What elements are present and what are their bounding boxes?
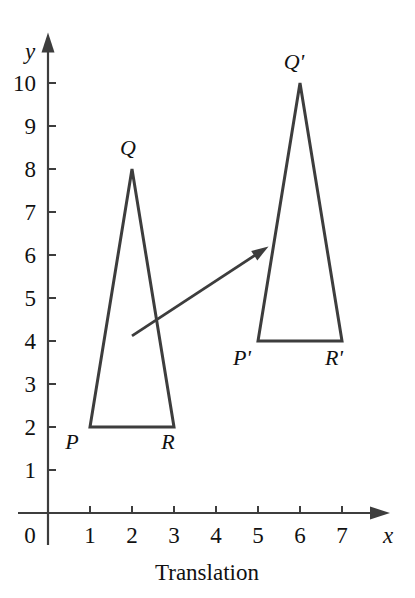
y-tick-label-3: 3 [25, 372, 37, 397]
x-tick-label-7: 7 [336, 523, 348, 548]
triangle-pqr-prime [258, 83, 342, 341]
vertex-label-P-prime: P' [232, 345, 251, 370]
x-tick-label-5: 5 [252, 523, 264, 548]
x-axis-arrowhead [370, 507, 390, 520]
vertex-label-Q: Q [120, 135, 136, 160]
y-axis-label: y [23, 39, 36, 64]
y-tick-label-1: 1 [25, 458, 37, 483]
vertex-label-P: P [64, 429, 78, 454]
figure-caption: Translation [155, 560, 259, 585]
y-tick-label-5: 5 [25, 286, 37, 311]
y-tick-label-4: 4 [25, 329, 37, 354]
y-tick-label-9: 9 [25, 114, 37, 139]
translation-vector-shaft [132, 254, 257, 336]
y-tick-label-10: 10 [13, 71, 36, 96]
vertex-label-R: R [160, 429, 175, 454]
y-tick-label-7: 7 [25, 200, 37, 225]
x-tick-label-3: 3 [168, 523, 180, 548]
x-axis-label: x [382, 523, 394, 548]
figure-canvas: 1234567123456789100xyPQRP'Q'R'Translatio… [0, 0, 415, 598]
x-tick-label-1: 1 [84, 523, 96, 548]
coordinate-plane-diagram: 1234567123456789100xyPQRP'Q'R'Translatio… [0, 0, 415, 598]
vertex-label-Q-prime: Q' [284, 49, 305, 74]
x-tick-label-4: 4 [210, 523, 222, 548]
triangle-pqr [90, 169, 174, 427]
vertex-label-R-prime: R' [324, 345, 343, 370]
y-tick-label-8: 8 [25, 157, 37, 182]
translation-vector-arrowhead [251, 246, 268, 260]
x-tick-label-6: 6 [294, 523, 306, 548]
y-tick-label-2: 2 [25, 415, 37, 440]
y-tick-label-6: 6 [25, 243, 37, 268]
y-axis-arrowhead [42, 33, 55, 53]
origin-label: 0 [24, 523, 36, 548]
x-tick-label-2: 2 [126, 523, 138, 548]
